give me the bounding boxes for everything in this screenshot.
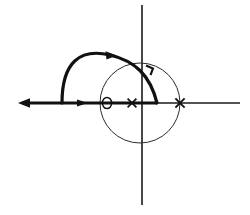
locus-real-axis-direction-arrowhead xyxy=(77,99,88,106)
locus-branches-group xyxy=(22,51,157,106)
root-locus-canvas xyxy=(0,0,250,215)
root-locus-figure xyxy=(0,0,250,215)
right-angle-tick-icon xyxy=(146,66,153,76)
locus-arc-direction-arrowhead xyxy=(106,51,118,59)
